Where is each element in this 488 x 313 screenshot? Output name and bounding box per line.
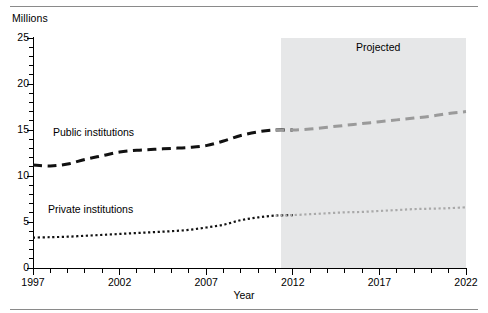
x-axis-title: Year [0, 289, 488, 301]
chart-figure: Millions Projected 0510152025 1997200220… [0, 0, 488, 313]
series-path-private-actual [33, 215, 293, 238]
series-path-public-projected [275, 112, 466, 130]
series-label-private: Private institutions [48, 203, 133, 215]
series-label-public: Public institutions [53, 126, 134, 138]
series-lines [0, 0, 488, 313]
series-path-private-projected [275, 207, 466, 215]
